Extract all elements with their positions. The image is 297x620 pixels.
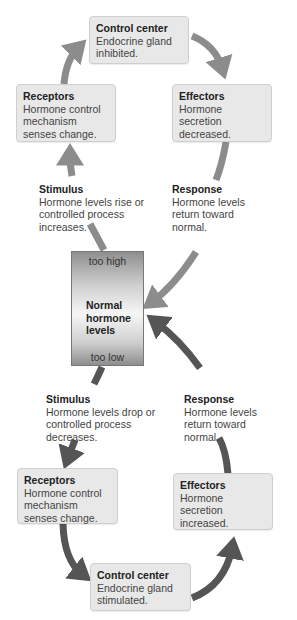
arrow-control-to-effectors-low: [192, 548, 232, 598]
box-text: Hormone control mechanism senses change.: [24, 487, 111, 525]
response-text: Hormone levels return toward normal.: [172, 196, 262, 234]
response-text: Hormone levels return toward normal.: [184, 406, 274, 444]
bottom-effectors-box: Effectors Hormone secretion increased.: [173, 473, 273, 530]
stimulus-text: Hormone levels drop or controlled proces…: [46, 406, 156, 444]
box-title: Control center: [96, 22, 182, 35]
top-effectors-box: Effectors Hormone secretion decreased.: [172, 84, 272, 142]
box-title: Control center: [97, 569, 184, 582]
hormone-level-meter: too high Normal hormone levels too low: [71, 251, 144, 366]
top-response-label: Response Hormone levels return toward no…: [172, 183, 262, 233]
response-title: Response: [184, 393, 274, 406]
arrow-response-to-meter: [152, 252, 196, 302]
arrow-effectors-to-response: [216, 142, 226, 180]
normal-levels-label: Normal hormone levels: [86, 299, 136, 337]
too-high-label: too high: [72, 255, 143, 267]
top-receptors-box: Receptors Hormone control mechanism sens…: [16, 84, 116, 142]
box-title: Receptors: [24, 474, 111, 487]
box-text: Endocrine gland inhibited.: [96, 35, 182, 60]
arrow-control-to-effectors: [192, 36, 222, 68]
top-control-center-box: Control center Endocrine gland inhibited…: [89, 16, 189, 64]
top-stimulus-label: Stimulus Hormone levels rise or controll…: [39, 183, 149, 233]
stimulus-title: Stimulus: [46, 393, 156, 406]
box-title: Effectors: [179, 90, 265, 103]
box-title: Receptors: [23, 90, 109, 103]
arrow-stimulus-to-receptors: [70, 155, 72, 176]
arrow-response-to-meter-low: [156, 322, 200, 368]
bottom-response-label: Response Hormone levels return toward no…: [184, 393, 274, 443]
arrow-meter-to-stimulus-low: [94, 367, 102, 384]
bottom-control-center-box: Control center Endocrine gland stimulate…: [90, 563, 191, 611]
stimulus-text: Hormone levels rise or controlled proces…: [39, 196, 149, 234]
box-text: Hormone secretion decreased.: [179, 103, 265, 141]
stimulus-title: Stimulus: [39, 183, 149, 196]
bottom-stimulus-label: Stimulus Hormone levels drop or controll…: [46, 393, 156, 443]
arrow-effectors-to-response-low: [219, 438, 228, 474]
box-title: Effectors: [180, 479, 266, 492]
arrow-receptors-to-control-low: [63, 524, 82, 574]
response-title: Response: [172, 183, 262, 196]
arrow-receptors-to-control: [64, 48, 78, 84]
box-text: Hormone secretion increased.: [180, 492, 266, 530]
box-text: Hormone control mechanism senses change.: [23, 103, 109, 141]
box-text: Endocrine gland stimulated.: [97, 582, 184, 607]
bottom-receptors-box: Receptors Hormone control mechanism sens…: [17, 468, 118, 524]
too-low-label: too low: [72, 351, 143, 363]
